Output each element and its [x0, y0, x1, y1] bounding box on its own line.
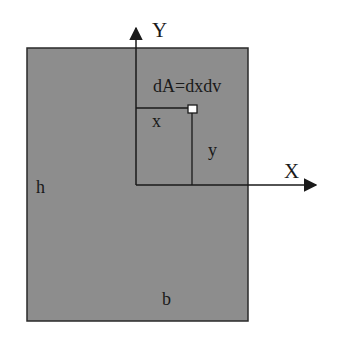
base-label: b — [162, 290, 171, 308]
x-distance-label: x — [152, 112, 161, 130]
area-element-label: dA=dxdv — [153, 77, 221, 95]
x-axis-label: X — [284, 161, 299, 182]
area-element-square — [188, 105, 197, 113]
y-distance-label: y — [208, 141, 217, 159]
y-axis-label: Y — [152, 20, 167, 41]
height-label: h — [36, 178, 45, 196]
